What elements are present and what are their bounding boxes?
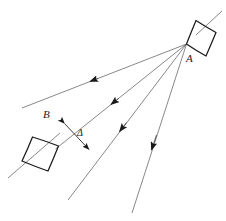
label-b: B	[43, 109, 50, 120]
ray-arrowheads-group	[90, 78, 157, 150]
ray-2	[56, 44, 187, 149]
label-a: A	[186, 53, 193, 64]
body-a-outline	[187, 21, 217, 57]
body-b-quadrilateral	[22, 137, 59, 171]
label-delta: Δ	[77, 128, 83, 138]
ray-4	[132, 44, 187, 213]
rays-group	[22, 44, 187, 213]
axis-through-b	[8, 133, 60, 178]
ray-3-arrow	[120, 123, 127, 132]
ray-4-arrow	[152, 135, 157, 150]
ray-1-arrow	[90, 78, 98, 81]
body-b-outline	[22, 137, 59, 171]
ray-2-arrow	[111, 99, 119, 105]
body-a-quadrilateral	[187, 21, 217, 57]
figure-canvas: A B Δ	[0, 0, 226, 221]
ray-diagram-svg	[0, 0, 226, 221]
